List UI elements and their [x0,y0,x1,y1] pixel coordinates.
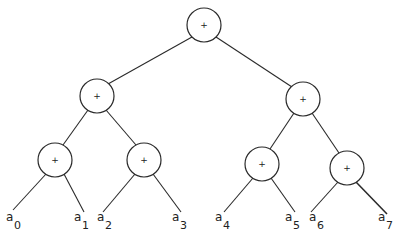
leaf-a2: a 2 [97,210,112,232]
plus-operator: + [140,155,148,165]
level1-node-right: + [286,82,320,116]
leaf-a4: a 4 [215,210,230,232]
plus-operator: + [51,155,59,165]
svg-text:a: a [309,210,316,224]
plus-operator: + [200,20,208,30]
svg-text:a: a [6,210,13,224]
plus-operator: + [343,163,351,173]
svg-text:a: a [285,210,292,224]
svg-text:0: 0 [14,219,21,232]
leaf-a5: a 5 [285,210,300,232]
svg-text:a: a [74,210,81,224]
level2-node-4: + [330,151,364,185]
svg-text:5: 5 [293,219,300,232]
leaf-a0: a 0 [6,210,21,232]
level2-node-2: + [127,143,161,177]
tree-edges [13,37,387,214]
svg-text:7: 7 [386,219,393,232]
svg-text:a: a [172,210,179,224]
plus-operator: + [299,94,307,104]
plus-operator: + [93,91,101,101]
svg-text:a: a [215,210,222,224]
svg-text:a: a [97,210,104,224]
plus-operator: + [258,159,266,169]
level1-node-left: + [80,79,114,113]
svg-text:6: 6 [317,219,324,232]
reduction-tree-diagram: + + + + + + + a 0 a 1 a 2 a 3 a 4 [0,0,393,235]
svg-text:a: a [378,210,385,224]
leaf-a3: a 3 [172,210,187,232]
svg-text:1: 1 [82,219,89,232]
svg-text:3: 3 [180,219,187,232]
level2-node-1: + [38,143,72,177]
level2-node-3: + [245,147,279,181]
root-node: + [187,8,221,42]
svg-text:2: 2 [105,219,112,232]
leaf-a1: a 1 [74,210,89,232]
leaf-a6: a 6 [309,210,324,232]
svg-text:4: 4 [223,219,230,232]
